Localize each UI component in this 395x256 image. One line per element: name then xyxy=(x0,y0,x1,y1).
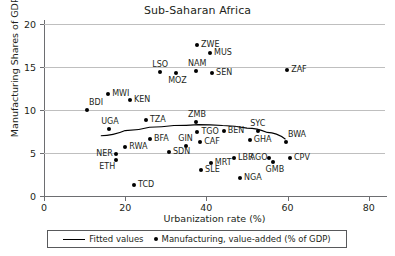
data-point-bdi[interactable] xyxy=(85,108,89,112)
data-point-label-gmb: GMB xyxy=(266,166,285,174)
data-point-label-bfa: BFA xyxy=(154,135,169,143)
legend-item-fitted-values: Fitted values xyxy=(63,234,143,244)
data-point-moz[interactable] xyxy=(174,71,178,75)
data-point-ben[interactable] xyxy=(222,129,226,133)
x-tick-label: 40 xyxy=(191,202,221,213)
y-tick-label: 0 xyxy=(6,191,36,202)
data-point-label-sle: SLE xyxy=(205,166,220,174)
chart-legend: Fitted values Manufacturing, value-added… xyxy=(47,230,347,248)
x-tick-label: 80 xyxy=(354,202,384,213)
chart-title: Sub-Saharan Africa xyxy=(0,4,395,17)
y-tick-label: 5 xyxy=(6,148,36,159)
plot-area: ZWEMUSZAFNAMSENLSOMOZMWIKENBDITZAZMBUGAS… xyxy=(44,24,385,196)
data-point-label-cpv: CPV xyxy=(294,154,310,162)
data-point-label-mwi: MWI xyxy=(112,90,129,98)
data-point-label-sdn: SDN xyxy=(173,148,190,156)
data-point-label-caf: CAF xyxy=(204,138,220,146)
line-marker-icon xyxy=(63,239,85,240)
data-point-zmb[interactable] xyxy=(194,120,198,124)
x-tick-label: 20 xyxy=(110,202,140,213)
data-point-label-uga: UGA xyxy=(101,118,119,126)
data-point-zaf[interactable] xyxy=(285,68,289,72)
data-point-label-zmb: ZMB xyxy=(188,111,206,119)
data-point-label-bdi: BDI xyxy=(89,99,103,107)
data-point-label-syc: SYC xyxy=(250,120,265,128)
x-tick xyxy=(369,197,370,201)
legend-label: Fitted values xyxy=(89,234,143,244)
y-tick-label: 20 xyxy=(6,19,36,30)
x-tick xyxy=(125,197,126,201)
data-point-label-bwa: BWA xyxy=(288,131,306,139)
data-point-mwi[interactable] xyxy=(106,92,110,96)
data-point-label-mus: MUS xyxy=(214,49,232,57)
data-point-label-ner: NER xyxy=(96,150,113,158)
data-point-label-rwa: RWA xyxy=(129,143,147,151)
data-point-gha[interactable] xyxy=(248,138,252,142)
data-point-ken[interactable] xyxy=(128,98,132,102)
data-point-tcd[interactable] xyxy=(132,183,136,187)
data-point-label-nga: NGA xyxy=(244,174,262,182)
data-point-label-zaf: ZAF xyxy=(291,66,307,74)
data-point-bwa[interactable] xyxy=(284,140,288,144)
data-point-label-sen: SEN xyxy=(216,69,232,77)
x-tick xyxy=(288,197,289,201)
data-point-label-lbr: LBR xyxy=(238,154,254,162)
data-point-label-lso: LSO xyxy=(152,61,168,69)
y-tick-label: 15 xyxy=(6,62,36,73)
data-point-label-gin: GIN xyxy=(178,135,193,143)
y-tick-label: 10 xyxy=(6,105,36,116)
data-point-uga[interactable] xyxy=(107,127,111,131)
data-point-label-moz: MOZ xyxy=(168,77,187,85)
legend-label: Manufacturing, value-added (% of GDP) xyxy=(162,234,331,244)
y-axis-label-wrapper: Manufacturing Shares of GDP (%) xyxy=(0,0,16,200)
data-point-label-tza: TZA xyxy=(150,116,166,124)
legend-item-manufacturing: Manufacturing, value-added (% of GDP) xyxy=(154,234,331,244)
data-point-label-ken: KEN xyxy=(134,96,150,104)
data-point-label-ben: BEN xyxy=(228,127,245,135)
x-tick-label: 0 xyxy=(29,202,59,213)
x-tick xyxy=(44,197,45,201)
data-point-label-gha: GHA xyxy=(254,136,272,144)
x-axis-line xyxy=(40,196,387,197)
data-point-label-eth: ETH xyxy=(99,163,115,171)
data-point-label-tgo: TGO xyxy=(201,128,218,136)
data-point-nga[interactable] xyxy=(238,176,242,180)
scatter-chart: Sub-Saharan Africa Manufacturing Shares … xyxy=(0,0,395,256)
data-point-syc[interactable] xyxy=(256,129,260,133)
dot-marker-icon xyxy=(154,237,158,241)
data-point-label-nam: NAM xyxy=(188,60,206,68)
data-point-zwe[interactable] xyxy=(195,43,199,47)
x-axis-label: Urbanization rate (%) xyxy=(44,213,385,224)
data-point-ner[interactable] xyxy=(114,152,118,156)
x-tick-label: 60 xyxy=(273,202,303,213)
data-point-label-tcd: TCD xyxy=(138,181,154,189)
x-tick xyxy=(206,197,207,201)
